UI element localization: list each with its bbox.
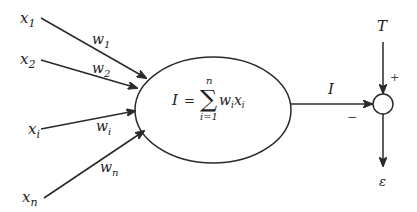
neuron-term: wixi [219, 92, 245, 110]
sum-symbol-icon: ∑ [200, 85, 217, 113]
target-label: T [377, 17, 388, 35]
weight-w1-label: w1 [92, 31, 110, 50]
error-label: ε [379, 174, 386, 189]
input-x1: x1 w1 [20, 9, 146, 78]
input-xn: xn wn [22, 131, 144, 209]
neuron-body: I = ∑ n i=1 wixi [135, 57, 291, 163]
sum-upper-limit: n [206, 75, 212, 86]
summing-circle [373, 94, 393, 114]
output-connection: I − [291, 80, 372, 124]
weight-wi-label: wi [96, 118, 111, 137]
input-x2-label: x2 [20, 50, 35, 71]
weight-wn-label: wn [100, 159, 118, 178]
input-xi-label: xi [28, 120, 40, 141]
output-label: I [327, 80, 335, 98]
sum-lower-limit: i=1 [200, 111, 218, 122]
summing-junction: T + ε [373, 17, 399, 189]
neuron-lhs: I [171, 91, 179, 109]
neuron-diagram: x1 w1 x2 w2 xi wi xn wn I = ∑ n i=1 wixi… [0, 0, 417, 212]
input-xn-label: xn [22, 188, 38, 209]
plus-sign: + [390, 71, 399, 84]
minus-sign: − [347, 110, 357, 124]
input-xi: xi wi [28, 111, 135, 141]
input-xn-arrow [44, 131, 144, 198]
input-x2: x2 w2 [20, 50, 137, 88]
input-x1-label: x1 [20, 9, 35, 30]
neuron-equals: = [184, 93, 195, 108]
input-xi-arrow [41, 111, 135, 129]
